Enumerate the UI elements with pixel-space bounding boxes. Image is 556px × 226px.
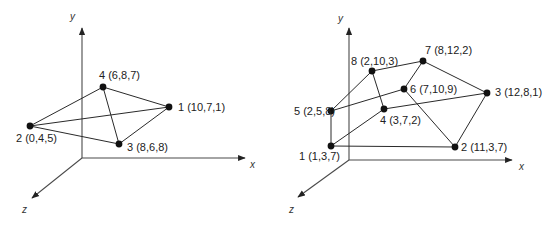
- edge-2-4: [30, 87, 103, 126]
- x-axis-label: x: [518, 161, 525, 172]
- vertex-8: [369, 68, 376, 75]
- vertex-4: [381, 106, 388, 113]
- vertex-6: [401, 86, 408, 93]
- vertex-label-1: 1 (1,3,7): [299, 150, 340, 162]
- edge-1-4: [331, 109, 384, 146]
- vertex-label-7: 7 (8,12,2): [425, 44, 472, 56]
- vertex-1: [166, 104, 173, 111]
- edge-3-2: [455, 93, 487, 147]
- y-axis-label: y: [69, 11, 76, 22]
- vertex-7: [420, 58, 427, 65]
- vertex-2: [27, 123, 34, 130]
- tetrahedron-diagram: yxz1 (10,7,1)2 (0,4,5)3 (8,6,8)4 (6,8,7): [16, 11, 256, 215]
- diagram-canvas: yxz1 (10,7,1)2 (0,4,5)3 (8,6,8)4 (6,8,7)…: [0, 0, 556, 226]
- z-axis: [32, 158, 82, 198]
- vertex-label-2: 2 (0,4,5): [16, 132, 57, 144]
- vertex-label-3: 3 (8,6,8): [127, 141, 168, 153]
- edge-2-1: [30, 107, 169, 126]
- vertex-3: [116, 141, 123, 148]
- z-axis-label: z: [288, 204, 294, 215]
- vertex-label-2: 2 (11,3,7): [461, 141, 507, 153]
- vertex-label-8: 8 (2,10,3): [351, 55, 398, 67]
- edge-8-4: [372, 71, 384, 109]
- solid-diagram: yxz1 (1,3,7)2 (11,3,7)3 (12,8,1)4 (3,7,2…: [288, 13, 542, 215]
- z-axis-label: z: [21, 204, 27, 215]
- vertex-2: [452, 144, 459, 151]
- vertex-label-4: 4 (3,7,2): [380, 114, 421, 126]
- vertex-1: [328, 143, 335, 150]
- x-axis-label: x: [249, 159, 256, 170]
- vertex-label-3: 3 (12,8,1): [495, 86, 542, 98]
- vertex-label-6: 6 (7,10,9): [410, 83, 457, 95]
- vertex-label-5: 5 (2,5,8): [294, 105, 335, 117]
- edge-4-3: [384, 93, 487, 109]
- vertex-3: [484, 90, 491, 97]
- y-axis-label: y: [337, 13, 344, 24]
- z-axis: [298, 160, 349, 197]
- edge-4-1: [103, 87, 169, 107]
- vertex-4: [100, 84, 107, 91]
- vertex-label-1: 1 (10,7,1): [178, 101, 225, 113]
- edge-1-2: [331, 146, 455, 147]
- vertex-label-4: 4 (6,8,7): [99, 69, 140, 81]
